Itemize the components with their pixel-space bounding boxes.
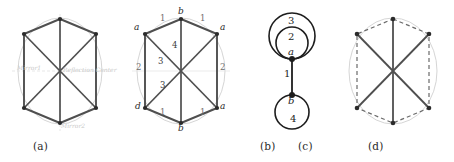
edge-label-top-left: 1 [160, 13, 165, 23]
vertex-label-bottom-left: d [135, 101, 141, 111]
vertex-label-bottom-right: a [220, 101, 225, 111]
panel-c: 3 2 a 1 b 4 (c) [246, 0, 338, 162]
edge-label-upper-vertical: 4 [172, 40, 177, 50]
panel-d-graphic [336, 0, 454, 140]
edge-label-bottom-right: 1 [200, 107, 205, 117]
vertex-top-left [355, 32, 360, 37]
vertex-top-left [143, 32, 147, 36]
edge-label-upper-left-diagonal: 3 [158, 56, 163, 66]
vertex-top-right [427, 32, 432, 37]
vertex-label-bottom: b [178, 123, 184, 133]
bridge-edge-label: 1 [284, 68, 290, 79]
vertex-top [58, 17, 62, 21]
panel-d: (d) [336, 0, 454, 162]
edge-label-bottom-left: 1 [160, 107, 165, 117]
loop-b-label: 4 [290, 113, 296, 124]
vertex-bottom-right [94, 106, 98, 110]
vertex-top-left [22, 32, 26, 36]
caption-c: (c) [298, 140, 313, 152]
reflection-center-label: Reflection Center [63, 66, 117, 73]
vertex-bottom-left [22, 106, 26, 110]
panel-a: Mirror1 Reflection Center Mirror2 (a) [0, 0, 120, 162]
node-a-label: a [288, 46, 294, 57]
caption-d: (d) [368, 140, 384, 152]
caption-a: (a) [33, 140, 48, 152]
edge-label-right-side: 2 [220, 62, 225, 72]
edge-label-lower-left-diagonal: 3 [160, 80, 165, 90]
vertex-label-top-right: a [220, 22, 225, 32]
vertex-bottom [391, 121, 396, 126]
vertex-bottom-right [427, 106, 432, 111]
vertex-bottom-left [143, 106, 147, 110]
loop-a-outer-label: 3 [288, 15, 294, 26]
loop-a-inner-label: 2 [288, 31, 294, 42]
figure-container: Mirror1 Reflection Center Mirror2 (a) b … [0, 0, 454, 162]
mirror2-label: Mirror2 [61, 122, 85, 129]
vertex-top [391, 17, 396, 22]
vertex-top-right [215, 32, 219, 36]
panel-b: b a a d b a 1 1 1 1 2 2 4 3 3 (b) [118, 0, 246, 162]
vertex-bottom-right [215, 106, 219, 110]
vertex-bottom-left [355, 106, 360, 111]
vertex-top [179, 17, 183, 21]
node-b-label: b [288, 95, 294, 106]
vertex-label-top-left: a [134, 22, 139, 32]
mirror1-label: Mirror1 [17, 64, 41, 71]
vertex-top-right [94, 32, 98, 36]
edge-label-left-side: 2 [136, 62, 141, 72]
vertex-label-top: b [178, 6, 184, 16]
edge-label-top-right: 1 [200, 13, 205, 23]
